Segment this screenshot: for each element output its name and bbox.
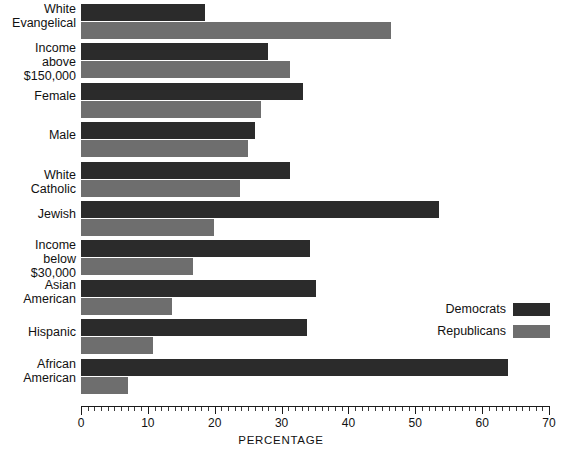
bar-democrats-1 xyxy=(81,43,268,60)
x-tick-minor xyxy=(368,407,369,411)
x-tick-minor xyxy=(295,407,296,411)
bar-democrats-3 xyxy=(81,122,255,139)
x-tick-minor xyxy=(469,407,470,411)
x-tick-minor xyxy=(516,407,517,411)
bar-republicans-4 xyxy=(81,180,240,197)
legend-label-democrats: Democrats xyxy=(446,302,506,316)
x-tick-label-60: 60 xyxy=(475,416,488,430)
x-tick-minor xyxy=(94,407,95,411)
x-tick-minor xyxy=(335,407,336,411)
x-tick-minor xyxy=(302,407,303,411)
legend-item-republicans: Republicans xyxy=(418,323,550,339)
bar-republicans-1 xyxy=(81,61,290,78)
x-tick-minor xyxy=(181,407,182,411)
x-tick-minor xyxy=(422,407,423,411)
x-tick-minor xyxy=(175,407,176,411)
bar-chart: White EvangelicalIncome above $150,000Fe… xyxy=(0,0,562,452)
bar-republicans-2 xyxy=(81,101,261,118)
x-tick-minor xyxy=(328,407,329,411)
bar-group xyxy=(81,240,549,275)
x-tick-minor xyxy=(435,407,436,411)
x-tick-minor xyxy=(141,407,142,411)
category-label-3: Male xyxy=(0,128,76,142)
x-tick-minor xyxy=(536,407,537,411)
x-tick-major xyxy=(215,407,216,414)
x-tick-minor xyxy=(529,407,530,411)
x-tick-minor xyxy=(114,407,115,411)
x-tick-major xyxy=(348,407,349,414)
x-tick-minor xyxy=(121,407,122,411)
bar-group xyxy=(81,43,549,78)
x-tick-minor xyxy=(275,407,276,411)
category-label-6: Income below $30,000 xyxy=(0,238,76,280)
bar-group xyxy=(81,83,549,118)
x-tick-label-10: 10 xyxy=(141,416,154,430)
x-tick-minor xyxy=(262,407,263,411)
bar-republicans-6 xyxy=(81,258,193,275)
x-tick-minor xyxy=(429,407,430,411)
x-tick-label-30: 30 xyxy=(275,416,288,430)
x-tick-minor xyxy=(161,407,162,411)
x-tick-minor xyxy=(375,407,376,411)
category-label-7: Asian American xyxy=(0,278,76,306)
x-tick-minor xyxy=(496,407,497,411)
x-tick-minor xyxy=(402,407,403,411)
bar-republicans-7 xyxy=(81,298,172,315)
bar-group xyxy=(81,359,549,394)
bar-republicans-9 xyxy=(81,377,128,394)
x-tick-minor xyxy=(88,407,89,411)
x-tick-major xyxy=(282,407,283,414)
x-tick-minor xyxy=(389,407,390,411)
x-tick-minor xyxy=(355,407,356,411)
x-tick-minor xyxy=(542,407,543,411)
bar-group xyxy=(81,4,549,39)
legend-swatch-republicans xyxy=(513,325,550,338)
bar-republicans-5 xyxy=(81,219,214,236)
x-tick-minor xyxy=(455,407,456,411)
x-tick-minor xyxy=(155,407,156,411)
x-tick-minor xyxy=(268,407,269,411)
category-label-9: African American xyxy=(0,357,76,385)
x-tick-major xyxy=(148,407,149,414)
x-tick-minor xyxy=(362,407,363,411)
category-axis-labels: White EvangelicalIncome above $150,000Fe… xyxy=(0,0,76,398)
x-tick-major xyxy=(549,407,550,414)
legend-label-republicans: Republicans xyxy=(437,324,506,338)
x-tick-minor xyxy=(509,407,510,411)
x-tick-minor xyxy=(462,407,463,411)
x-tick-minor xyxy=(288,407,289,411)
x-axis-title: PERCENTAGE xyxy=(0,434,562,446)
category-label-4: White Catholic xyxy=(0,168,76,196)
bar-democrats-7 xyxy=(81,280,316,297)
x-tick-minor xyxy=(188,407,189,411)
x-tick-minor xyxy=(235,407,236,411)
x-tick-minor xyxy=(409,407,410,411)
bar-group xyxy=(81,201,549,236)
bar-democrats-8 xyxy=(81,319,307,336)
x-tick-minor xyxy=(442,407,443,411)
x-tick-minor xyxy=(449,407,450,411)
legend: Democrats Republicans xyxy=(418,301,550,345)
bar-group xyxy=(81,122,549,157)
x-tick-minor xyxy=(101,407,102,411)
x-tick-minor xyxy=(248,407,249,411)
bar-republicans-3 xyxy=(81,140,248,157)
category-label-5: Jewish xyxy=(0,207,76,221)
x-tick-minor xyxy=(128,407,129,411)
x-tick-label-20: 20 xyxy=(208,416,221,430)
bar-democrats-9 xyxy=(81,359,508,376)
x-tick-label-50: 50 xyxy=(409,416,422,430)
bar-democrats-2 xyxy=(81,83,303,100)
x-tick-minor xyxy=(382,407,383,411)
bar-democrats-6 xyxy=(81,240,310,257)
x-tick-minor xyxy=(134,407,135,411)
x-tick-major xyxy=(81,407,82,414)
x-tick-minor xyxy=(395,407,396,411)
legend-item-democrats: Democrats xyxy=(418,301,550,317)
bar-democrats-4 xyxy=(81,162,290,179)
x-tick-minor xyxy=(322,407,323,411)
x-tick-label-40: 40 xyxy=(342,416,355,430)
x-tick-major xyxy=(415,407,416,414)
x-tick-minor xyxy=(308,407,309,411)
category-label-8: Hispanic xyxy=(0,325,76,339)
